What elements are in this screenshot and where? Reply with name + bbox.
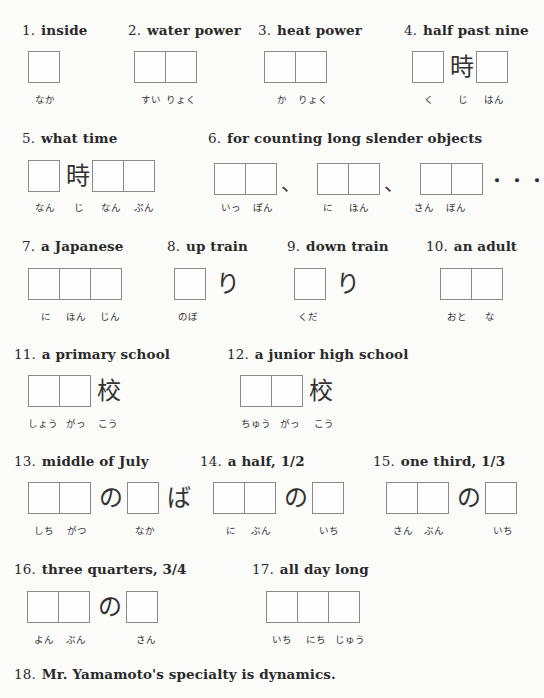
reading: く	[424, 92, 434, 106]
answer-box[interactable]	[317, 163, 349, 195]
answer-box[interactable]	[329, 591, 360, 623]
answer-box[interactable]	[59, 591, 90, 623]
reading: こう	[98, 416, 118, 430]
answer-box[interactable]	[412, 51, 444, 83]
question-1-label: 1.inside	[22, 22, 87, 38]
question-12-label: 12.a junior high school	[227, 346, 408, 362]
reading: さん	[393, 523, 413, 537]
answer-box[interactable]	[60, 482, 91, 514]
question-16-label: 16.three quarters, 3/4	[14, 561, 187, 577]
reading: しち	[34, 523, 54, 537]
comma: 、	[384, 168, 404, 197]
reading: よん	[34, 632, 54, 646]
question-6-answer: 、 、 ・・・	[214, 160, 544, 197]
question-8-answer: り	[174, 268, 240, 300]
answer-box[interactable]	[91, 268, 122, 300]
answer-box[interactable]	[28, 482, 60, 514]
reading: なか	[35, 92, 55, 106]
answer-box[interactable]	[312, 482, 344, 514]
reading: なん	[101, 200, 121, 214]
reading: おと	[447, 309, 467, 323]
answer-box[interactable]	[174, 268, 206, 300]
reading: にち	[306, 632, 326, 646]
answer-box[interactable]	[476, 51, 508, 83]
answer-box[interactable]	[485, 482, 517, 514]
reading: じゅう	[335, 632, 365, 646]
answer-box[interactable]	[349, 163, 380, 195]
question-4-label: 4.half past nine	[404, 22, 529, 38]
question-11-answer: 校	[28, 375, 121, 407]
reading: こう	[314, 416, 334, 430]
question-1-answer	[28, 51, 60, 83]
answer-box[interactable]	[272, 375, 303, 407]
answer-box[interactable]	[440, 268, 472, 300]
reading: いち	[493, 523, 513, 537]
answer-box[interactable]	[240, 375, 272, 407]
answer-box[interactable]	[127, 482, 159, 514]
question-10-answer	[440, 268, 503, 300]
answer-box[interactable]	[60, 268, 91, 300]
question-9-label: 9.down train	[287, 238, 389, 254]
answer-box[interactable]	[28, 160, 60, 192]
kanji-kou: 校	[97, 375, 121, 407]
question-14-label: 14.a half, 1/2	[200, 453, 305, 469]
question-2-answer	[134, 51, 197, 83]
answer-box[interactable]	[420, 163, 452, 195]
answer-box[interactable]	[92, 160, 124, 192]
ellipsis: ・・・	[489, 167, 544, 191]
kana-ri: り	[336, 268, 360, 300]
answer-box[interactable]	[28, 375, 60, 407]
reading: に	[323, 200, 333, 214]
question-18-label: 18.Mr. Yamamoto's specialty is dynamics.	[14, 666, 336, 682]
reading: はん	[484, 92, 504, 106]
answer-box[interactable]	[28, 268, 60, 300]
kana-no: の	[98, 591, 122, 623]
reading: りょく	[166, 92, 196, 106]
reading: いっ	[221, 200, 241, 214]
answer-box[interactable]	[264, 51, 296, 83]
answer-box[interactable]	[214, 163, 246, 195]
reading: じ	[458, 92, 468, 106]
reading: ほん	[349, 200, 369, 214]
reading: さん	[414, 200, 434, 214]
answer-box[interactable]	[134, 51, 166, 83]
answer-box[interactable]	[60, 375, 91, 407]
answer-box[interactable]	[27, 591, 59, 623]
question-15-answer: の	[386, 482, 517, 514]
question-17-label: 17.all day long	[252, 561, 369, 577]
comma: 、	[281, 168, 301, 197]
reading: りょく	[298, 92, 328, 106]
reading: さん	[136, 632, 156, 646]
answer-box[interactable]	[166, 51, 197, 83]
answer-box[interactable]	[245, 482, 276, 514]
answer-box[interactable]	[294, 268, 326, 300]
answer-box[interactable]	[472, 268, 503, 300]
question-5-label: 5.what time	[22, 130, 117, 146]
question-8-label: 8.up train	[167, 238, 248, 254]
question-14-answer: の	[213, 482, 344, 514]
answer-box[interactable]	[298, 591, 329, 623]
answer-box[interactable]	[296, 51, 327, 83]
reading: のぼ	[178, 309, 198, 323]
question-13-answer: の ば	[28, 482, 191, 514]
reading: ぶん	[66, 632, 86, 646]
question-17-answer	[266, 591, 360, 623]
answer-box[interactable]	[418, 482, 449, 514]
reading: ほん	[66, 309, 86, 323]
reading: じ	[74, 200, 84, 214]
answer-box[interactable]	[213, 482, 245, 514]
reading: がっ	[66, 416, 86, 430]
reading: しょう	[28, 416, 58, 430]
answer-box[interactable]	[126, 591, 158, 623]
kana-no: の	[457, 482, 481, 514]
answer-box[interactable]	[28, 51, 60, 83]
answer-box[interactable]	[386, 482, 418, 514]
answer-box[interactable]	[266, 591, 298, 623]
answer-box[interactable]	[246, 163, 277, 195]
kanji-ji: 時	[450, 51, 474, 83]
question-6-label: 6.for counting long slender objects	[208, 130, 482, 146]
question-16-answer: の	[27, 591, 158, 623]
answer-box[interactable]	[124, 160, 155, 192]
question-10-label: 10.an adult	[426, 238, 517, 254]
answer-box[interactable]	[452, 163, 483, 195]
